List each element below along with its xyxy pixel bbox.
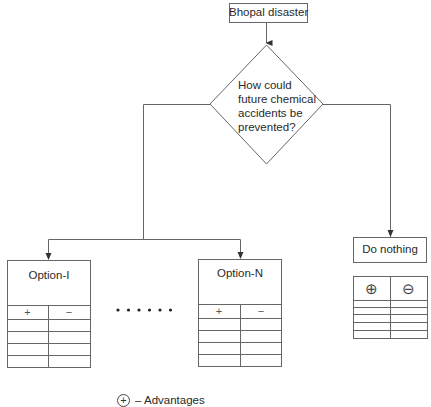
option-i-label: Option-I bbox=[7, 270, 91, 282]
legend-plus-circle-icon: + bbox=[117, 394, 130, 407]
option-i-advantages-header: + bbox=[7, 307, 48, 318]
root-node-label: Bhopal disaster bbox=[229, 7, 308, 19]
legend: +– Advantages bbox=[117, 394, 205, 407]
do-nothing-label: Do nothing bbox=[353, 244, 427, 256]
minus-circle-icon: ⊖ bbox=[390, 281, 427, 296]
decision-node-label: How could future chemical accidents be p… bbox=[238, 78, 318, 134]
legend-advantages-text: – Advantages bbox=[135, 394, 205, 406]
option-n-label: Option-N bbox=[198, 268, 282, 280]
option-i-disadvantages-header: − bbox=[48, 307, 90, 318]
plus-circle-icon: ⊕ bbox=[353, 281, 390, 296]
option-n-disadvantages-header: − bbox=[240, 306, 282, 317]
option-n-advantages-header: + bbox=[198, 306, 240, 317]
ellipsis-dots bbox=[116, 308, 172, 311]
